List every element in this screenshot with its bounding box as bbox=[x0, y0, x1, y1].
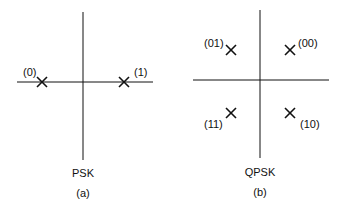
qpsk-point-00-marker bbox=[285, 45, 295, 55]
psk-title: PSK bbox=[72, 167, 94, 179]
qpsk-point-01-label: (01) bbox=[204, 37, 224, 49]
constellation-diagrams bbox=[0, 0, 344, 211]
psk-point-0-label: (0) bbox=[23, 66, 36, 78]
psk-caption: (a) bbox=[76, 187, 89, 199]
qpsk-point-10-label: (10) bbox=[300, 118, 320, 130]
qpsk-caption: (b) bbox=[253, 186, 266, 198]
qpsk-point-01-marker bbox=[226, 45, 236, 55]
qpsk-point-00-label: (00) bbox=[298, 37, 318, 49]
qpsk-point-11-marker bbox=[226, 108, 236, 118]
qpsk-point-11-label: (11) bbox=[204, 118, 223, 130]
qpsk-point-10-marker bbox=[285, 108, 295, 118]
qpsk-title: QPSK bbox=[245, 166, 276, 178]
qpsk-axes bbox=[193, 10, 329, 158]
psk-point-1-label: (1) bbox=[134, 66, 147, 78]
